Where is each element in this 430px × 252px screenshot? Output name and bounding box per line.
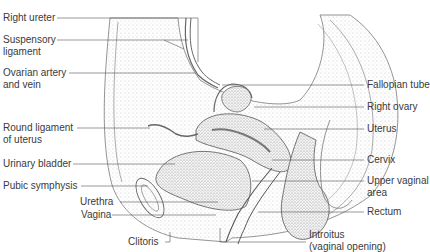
label-round-ligament: Round ligamentof uterus [3, 122, 73, 145]
label-line: Round ligament [3, 122, 73, 134]
label-right-ureter: Right ureter [3, 12, 55, 24]
label-rectum: Rectum [367, 206, 401, 218]
label-line: area [367, 187, 429, 199]
label-right-ovary: Right ovary [367, 101, 418, 113]
label-line: and vein [3, 79, 66, 91]
label-ovarian-artery-vein: Ovarian arteryand vein [3, 67, 66, 90]
label-line: of uterus [3, 134, 73, 146]
label-urinary-bladder: Urinary bladder [3, 158, 71, 170]
label-vagina: Vagina [81, 209, 111, 221]
label-suspensory-ligament: Suspensoryligament [3, 34, 56, 57]
label-upper-vaginal-area: Upper vaginalarea [367, 175, 429, 198]
label-line: Upper vaginal [367, 175, 429, 187]
label-line: (vaginal opening) [309, 241, 386, 252]
label-line: ligament [3, 46, 56, 58]
label-line: Ovarian artery [3, 67, 66, 79]
label-clitoris: Clitoris [128, 236, 159, 248]
label-fallopian-tube: Fallopian tube [367, 79, 430, 91]
label-line: Suspensory [3, 34, 56, 46]
label-pubic-symphysis: Pubic symphysis [3, 180, 77, 192]
label-introitus: Introitus(vaginal opening) [309, 229, 386, 252]
label-line: Introitus [309, 229, 386, 241]
label-uterus: Uterus [367, 123, 396, 135]
label-urethra: Urethra [80, 196, 113, 208]
label-cervix: Cervix [367, 154, 395, 166]
